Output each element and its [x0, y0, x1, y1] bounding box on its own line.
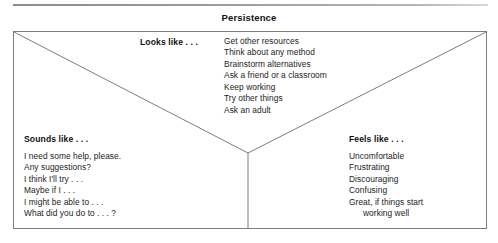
- list-item: Ask a friend or a classroom: [224, 70, 327, 81]
- y-chart-figure: Persistence Looks like . . . Get other r…: [0, 0, 498, 243]
- list-item: Any suggestions?: [24, 162, 121, 173]
- list-item: Maybe if I . . .: [24, 185, 121, 196]
- list-item: working well: [349, 208, 423, 219]
- list-item: Frustrating: [349, 162, 423, 173]
- list-item: I need some help, please.: [24, 151, 121, 162]
- sounds-like-list: I need some help, please. Any suggestion…: [24, 151, 121, 220]
- list-item: I think I'll try . . .: [24, 174, 121, 185]
- looks-like-list: Get other resources Think about any meth…: [224, 36, 327, 116]
- list-item: Get other resources: [224, 36, 327, 47]
- list-item: Keep working: [224, 82, 327, 93]
- list-item: Brainstorm alternatives: [224, 59, 327, 70]
- list-item: Think about any method: [224, 47, 327, 58]
- list-item: Try other things: [224, 93, 327, 104]
- feels-like-heading: Feels like . . .: [349, 134, 404, 144]
- feels-like-list: Uncomfortable Frustrating Discouraging C…: [349, 151, 423, 220]
- list-item: What did you do to . . . ?: [24, 208, 121, 219]
- list-item: Confusing: [349, 185, 423, 196]
- list-item: Uncomfortable: [349, 151, 423, 162]
- list-item: I might be able to . . .: [24, 197, 121, 208]
- list-item: Discouraging: [349, 174, 423, 185]
- sounds-like-heading: Sounds like . . .: [24, 134, 88, 144]
- list-item: Great, if things start: [349, 197, 423, 208]
- list-item: Ask an adult: [224, 105, 327, 116]
- looks-like-heading: Looks like . . .: [140, 37, 198, 47]
